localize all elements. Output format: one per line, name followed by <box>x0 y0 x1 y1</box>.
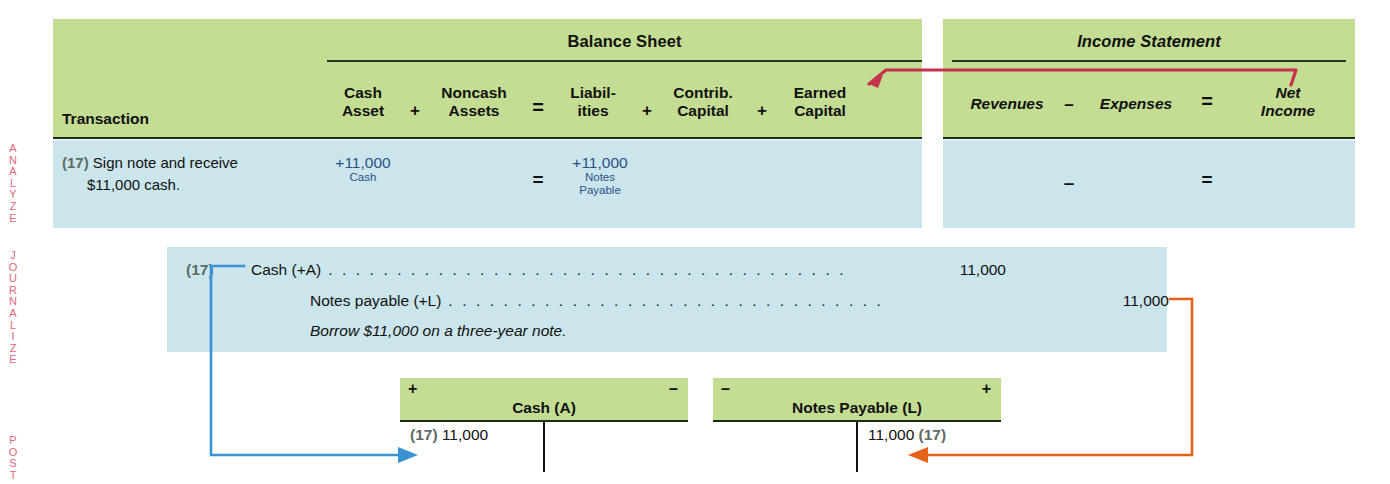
phase-letter: A <box>2 308 24 320</box>
contrib-line2: Capital <box>677 102 729 119</box>
t-account-notes-payable: – + Notes Payable (L) 11,000 (17) <box>713 378 1001 474</box>
column-header-liabilities: Liabil- ities <box>546 84 640 119</box>
cash-asset-line2: Asset <box>342 102 384 119</box>
journal-credit-amount: 11,000 <box>1063 292 1169 310</box>
transaction-desc-line2: $11,000 cash. <box>62 174 180 196</box>
operator-minus-is: – <box>1058 95 1080 115</box>
t-account-notes-payable-credit-ref: (17) <box>919 426 947 443</box>
income-statement-title-rule <box>952 60 1346 62</box>
phase-analyze-letters: ANALYZE <box>2 143 24 224</box>
journal-line-credit: Notes payable (+L) . . . . . . . . . . .… <box>310 292 883 310</box>
journal-credit-account: Notes payable (+L) <box>310 292 441 309</box>
t-account-cash-stem <box>543 422 545 472</box>
balance-sheet-header-rule <box>53 137 922 139</box>
phase-label-journalize: JOURNALIZE <box>2 250 24 366</box>
cash-asset-account: Cash <box>303 171 423 184</box>
phase-letter: I <box>2 331 24 343</box>
t-account-notes-payable-stem <box>856 422 858 472</box>
earned-line2: Capital <box>794 102 846 119</box>
column-header-earned-capital: Earned Capital <box>770 84 870 119</box>
liabilities-account2: Payable <box>545 184 655 197</box>
column-header-contrib-capital: Contrib. Capital <box>653 84 753 119</box>
row-is-minus: – <box>1056 172 1082 194</box>
income-statement-title: Income Statement <box>943 32 1355 51</box>
contrib-line1: Contrib. <box>673 84 732 101</box>
t-account-notes-payable-title: Notes Payable (L) <box>713 399 1001 417</box>
revenues-label: Revenues <box>970 95 1043 112</box>
column-header-noncash-assets: Noncash Assets <box>420 84 528 119</box>
transaction-description: (17) Sign note and receive $11,000 cash. <box>62 152 312 196</box>
income-statement-row-panel <box>943 140 1355 228</box>
phase-journalize-letters: JOURNALIZE <box>2 250 24 366</box>
phase-letter: A <box>2 143 24 155</box>
cash-asset-amount: +11,000 <box>335 154 390 171</box>
column-header-cash-asset: Cash Asset <box>318 84 408 119</box>
t-account-notes-payable-credit-entry: 11,000 (17) <box>868 426 946 444</box>
t-account-cash-left-sign: + <box>408 380 417 398</box>
liab-line1: Liabil- <box>570 84 616 101</box>
journal-debit-dots: . . . . . . . . . . . . . . . . . . . . … <box>321 261 846 278</box>
liabilities-amount: +11,000 <box>572 154 627 171</box>
phase-letter: J <box>2 250 24 262</box>
t-account-cash-debit-entry: (17) 11,000 <box>410 426 488 444</box>
value-liabilities: +11,000 Notes Payable <box>545 154 655 197</box>
t-account-notes-payable-credit-amount: 11,000 <box>868 426 914 443</box>
column-header-expenses: Expenses <box>1080 95 1192 113</box>
transaction-number: (17) <box>62 154 89 171</box>
column-header-revenues: Revenues <box>952 95 1062 113</box>
phase-label-analyze: ANALYZE <box>2 143 24 224</box>
liab-line2: ities <box>577 102 608 119</box>
noncash-line2: Assets <box>449 102 500 119</box>
phase-letter: T <box>2 470 24 482</box>
phase-letter: P <box>2 435 24 447</box>
phase-letter: E <box>2 354 24 366</box>
t-account-cash-debit-ref: (17) <box>410 426 438 443</box>
transaction-column-header: Transaction <box>62 110 149 128</box>
operator-equals-is: = <box>1195 93 1219 110</box>
net-income-line2: Income <box>1261 102 1315 119</box>
earned-line1: Earned <box>794 84 847 101</box>
cash-asset-line1: Cash <box>344 84 382 101</box>
t-account-cash-debit-amount: 11,000 <box>442 426 488 443</box>
phase-label-post: POST <box>2 435 24 481</box>
value-cash-asset: +11,000 Cash <box>303 154 423 184</box>
journal-ref: (17) <box>186 261 214 279</box>
t-account-notes-payable-left-sign: – <box>721 380 730 398</box>
row-is-equals: = <box>1194 169 1220 191</box>
column-header-net-income: Net Income <box>1232 84 1344 119</box>
journal-credit-dots: . . . . . . . . . . . . . . . . . . . . … <box>441 292 883 309</box>
t-account-cash-right-sign: – <box>669 380 678 398</box>
balance-sheet-title: Balance Sheet <box>327 32 922 51</box>
phase-letter: E <box>2 213 24 225</box>
t-account-cash-title: Cash (A) <box>400 399 688 417</box>
expenses-label: Expenses <box>1100 95 1172 112</box>
journal-debit-account: Cash (+A) <box>251 261 321 278</box>
journal-debit-amount: 11,000 <box>900 261 1006 279</box>
income-statement-header-rule <box>943 137 1355 139</box>
transaction-desc-line1: Sign note and receive <box>93 154 238 171</box>
phase-post-letters: POST <box>2 435 24 481</box>
journal-line-debit: Cash (+A) . . . . . . . . . . . . . . . … <box>251 261 846 279</box>
noncash-line1: Noncash <box>441 84 506 101</box>
t-account-notes-payable-right-sign: + <box>982 380 991 398</box>
liabilities-account: Notes <box>545 171 655 184</box>
phase-letter: Z <box>2 201 24 213</box>
t-account-cash: + – Cash (A) (17) 11,000 <box>400 378 688 474</box>
net-income-line1: Net <box>1276 84 1301 101</box>
diagram-canvas: ANALYZE JOURNALIZE POST Balance Sheet Tr… <box>0 0 1390 484</box>
journal-memo: Borrow $11,000 on a three-year note. <box>310 322 566 340</box>
balance-sheet-title-rule <box>327 60 922 62</box>
